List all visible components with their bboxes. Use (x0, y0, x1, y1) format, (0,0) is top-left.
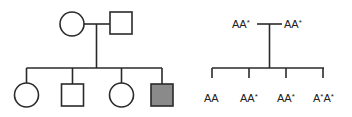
son-1-symbol (62, 84, 84, 106)
parent-genotype-right: AA* (284, 18, 302, 30)
father-symbol (110, 12, 132, 34)
parent-genotype-left: AA* (232, 18, 250, 30)
child-genotype-3: AA* (277, 92, 295, 104)
child-genotype-2: AA* (240, 92, 258, 104)
genotype-pedigree: AA* AA* AA AA* AA* A*A* (204, 18, 334, 104)
daughter-1-symbol (15, 83, 39, 107)
affected-son-symbol (151, 84, 173, 106)
child-genotype-1: AA (204, 92, 219, 104)
pedigree-figure: AA* AA* AA AA* AA* A*A* (0, 0, 352, 117)
symbolic-pedigree (15, 12, 174, 107)
mother-symbol (60, 12, 84, 36)
child-genotype-4: A*A* (313, 92, 334, 104)
daughter-2-symbol (110, 83, 134, 107)
